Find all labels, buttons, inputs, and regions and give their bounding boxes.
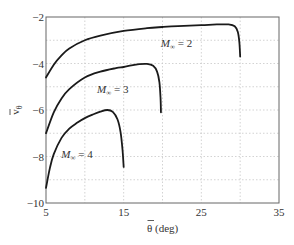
y-tick-label: −4 <box>32 58 44 70</box>
annotation-label: M∞ = 4 <box>60 148 93 162</box>
y-axis-title: vθ <box>9 105 24 115</box>
y-tick-label: −6 <box>32 104 44 116</box>
x-tick-label: 5 <box>43 206 49 218</box>
y-tick-label: −2 <box>32 11 44 23</box>
svg-text:vθ: vθ <box>9 105 24 115</box>
tick-labels: 5152535−2−4−6−8−10 <box>27 11 285 218</box>
x-axis-unit: (deg) <box>152 222 178 235</box>
x-axis-title: θ (deg) <box>147 221 179 236</box>
annotation-label: M∞ = 3 <box>96 83 129 97</box>
annotation-label: M∞ = 2 <box>160 37 192 51</box>
curve-annotations: M∞ = 2M∞ = 3M∞ = 4 <box>60 37 192 163</box>
curve-mach-3 <box>46 64 161 133</box>
chart: 5152535−2−4−6−8−10 M∞ = 2M∞ = 3M∞ = 4 θ … <box>0 0 294 245</box>
x-tick-label: 15 <box>118 206 130 218</box>
x-tick-label: 25 <box>196 206 208 218</box>
y-tick-label: −10 <box>27 197 45 209</box>
curve-mach-2 <box>46 24 240 77</box>
y-axis-subscript: θ <box>15 105 24 109</box>
x-tick-label: 35 <box>274 206 286 218</box>
svg-text:θ (deg): θ (deg) <box>147 222 179 235</box>
curves <box>46 24 240 188</box>
y-tick-label: −8 <box>32 151 44 163</box>
